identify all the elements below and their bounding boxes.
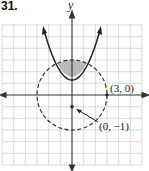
graph: y (3, 0) (0, −1) bbox=[0, 0, 149, 171]
point-label-0-neg1: (0, −1) bbox=[99, 120, 129, 133]
point-label-3-0: (3, 0) bbox=[110, 82, 134, 95]
point-3-0 bbox=[105, 93, 108, 96]
parabola-arrow-left bbox=[42, 26, 47, 35]
parabola-arrow-right bbox=[97, 26, 102, 35]
point-0-neg1 bbox=[70, 105, 74, 109]
y-axis-label: y bbox=[67, 0, 74, 12]
